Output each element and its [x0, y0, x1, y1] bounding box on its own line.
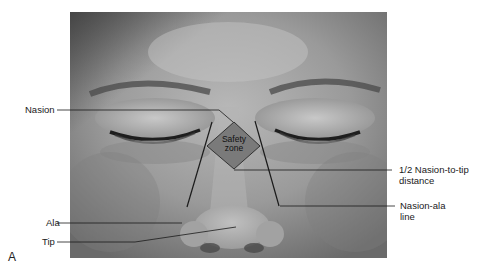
tip-leader-line — [57, 227, 236, 242]
nasion-ala-line-left — [187, 122, 212, 207]
label-ala: Ala — [46, 217, 60, 228]
label-nasion: Nasion — [25, 104, 55, 115]
panel-letter: A — [8, 250, 16, 264]
nasion-leader-line — [57, 110, 233, 122]
label-tip: Tip — [42, 236, 55, 247]
safety-zone-label: Safety zone — [216, 135, 252, 153]
nasion-ala-line-right — [255, 121, 279, 206]
label-half-nasion-to-tip: 1/2 Nasion-to-tip distance — [399, 164, 469, 186]
annotated-face-figure: Safety zone Nasion Ala Tip 1/2 Nasion-to… — [0, 0, 482, 270]
label-nasion-ala-line: Nasion-ala line — [400, 200, 445, 222]
